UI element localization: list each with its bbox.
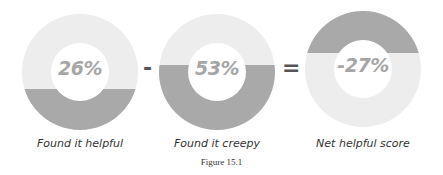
equals-operator: = — [282, 55, 300, 80]
donut-value: 26% — [22, 57, 138, 79]
donut-found-creepy: 53% — [159, 14, 275, 130]
donut-label: Net helpful score — [288, 137, 438, 150]
figure-caption: Figure 15.1 — [0, 157, 443, 167]
donut-label: Found it creepy — [142, 137, 292, 150]
donut-value: -27% — [305, 54, 421, 76]
minus-operator: - — [143, 55, 152, 80]
donut-net-helpful-score: -27% — [305, 11, 421, 127]
donut-label: Found it helpful — [5, 137, 155, 150]
donut-value: 53% — [159, 57, 275, 79]
donut-found-helpful: 26% — [22, 14, 138, 130]
